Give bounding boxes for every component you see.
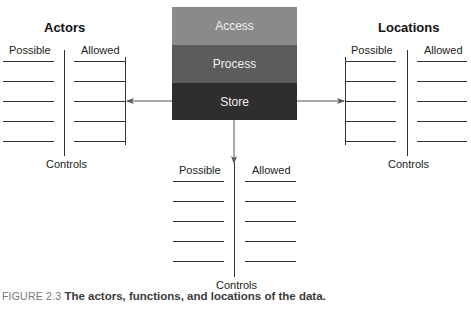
actors-bracket xyxy=(125,57,126,145)
actors-allowed-line xyxy=(74,121,125,122)
actors-controls-label: Controls xyxy=(46,158,87,170)
locations-possible-line xyxy=(345,81,396,82)
actors-allowed-header: Allowed xyxy=(81,44,120,56)
figure-label: FIGURE 2.3 xyxy=(2,290,61,302)
locations-allowed-header: Allowed xyxy=(424,44,463,56)
bottom-possible-header: Possible xyxy=(179,164,221,176)
function-box: Access Process Store xyxy=(172,7,297,120)
bottom-possible-line xyxy=(173,181,224,182)
actors-possible-header: Possible xyxy=(9,44,51,56)
actors-possible-line xyxy=(3,121,54,122)
bottom-possible-line xyxy=(173,261,224,262)
actors-divider xyxy=(64,50,65,156)
band-store-label: Store xyxy=(220,95,249,109)
bottom-possible-line xyxy=(173,241,224,242)
caption-text: The actors, functions, and locations of … xyxy=(64,290,325,302)
actors-allowed-line xyxy=(74,61,125,62)
band-process: Process xyxy=(172,45,297,83)
locations-allowed-line xyxy=(417,121,467,122)
band-access-label: Access xyxy=(215,19,254,33)
locations-possible-line xyxy=(345,121,396,122)
band-access: Access xyxy=(172,7,297,45)
locations-divider xyxy=(407,50,408,156)
band-store: Store xyxy=(172,83,297,120)
bottom-allowed-line xyxy=(245,241,296,242)
bottom-divider xyxy=(234,163,235,277)
bottom-allowed-line xyxy=(245,201,296,202)
locations-possible-line xyxy=(345,141,396,142)
actors-allowed-line xyxy=(74,81,125,82)
bottom-possible-line xyxy=(173,201,224,202)
locations-possible-line xyxy=(345,61,396,62)
locations-allowed-line xyxy=(417,141,467,142)
bottom-allowed-line xyxy=(245,261,296,262)
locations-possible-header: Possible xyxy=(351,44,393,56)
actors-allowed-line xyxy=(74,101,125,102)
bottom-allowed-header: Allowed xyxy=(252,164,291,176)
figure-caption: FIGURE 2.3 The actors, functions, and lo… xyxy=(2,290,326,302)
locations-allowed-line xyxy=(417,101,467,102)
locations-title: Locations xyxy=(378,20,439,35)
locations-controls-label: Controls xyxy=(388,158,429,170)
actors-allowed-line xyxy=(74,141,125,142)
locations-allowed-line xyxy=(417,81,467,82)
bottom-possible-line xyxy=(173,221,224,222)
actors-possible-line xyxy=(3,141,54,142)
actors-title: Actors xyxy=(44,20,85,35)
bottom-allowed-line xyxy=(245,181,296,182)
band-process-label: Process xyxy=(213,57,256,71)
locations-possible-line xyxy=(345,101,396,102)
bottom-allowed-line xyxy=(245,221,296,222)
locations-allowed-line xyxy=(417,61,467,62)
actors-possible-line xyxy=(3,61,54,62)
actors-possible-line xyxy=(3,101,54,102)
actors-possible-line xyxy=(3,81,54,82)
